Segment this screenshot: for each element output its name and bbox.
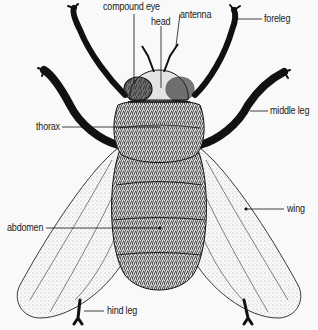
- thorax-shape: [114, 100, 204, 163]
- label-wing: wing: [287, 203, 305, 214]
- fly-illustration: [0, 0, 318, 330]
- label-head: head: [151, 16, 170, 27]
- head-shape: [124, 44, 194, 102]
- label-foreleg: foreleg: [264, 13, 290, 24]
- label-middle-leg: middle leg: [270, 105, 309, 116]
- label-antenna: antenna: [180, 9, 211, 20]
- label-hind-leg: hind leg: [107, 305, 137, 316]
- label-abdomen: abdomen: [7, 222, 43, 233]
- label-thorax: thorax: [36, 121, 60, 132]
- abdomen-shape: [112, 150, 207, 290]
- label-compound-eye: compound eye: [103, 1, 160, 12]
- fly-anatomy-diagram: compound eye head antenna foreleg middle…: [0, 0, 318, 330]
